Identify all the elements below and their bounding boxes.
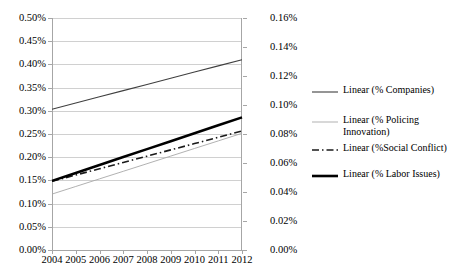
y-axis-right-tick (243, 47, 247, 48)
y-axis-left-tick (48, 111, 52, 112)
series-layer (52, 18, 242, 250)
y-axis-right-tick (243, 163, 247, 164)
y-axis-right-tick (243, 18, 247, 19)
y-axis-left-tick-label: 0.30% (19, 105, 46, 116)
legend-label: Linear (%Social Conflict) (343, 142, 447, 154)
y-axis-right-tick-label: 0.08% (270, 128, 297, 139)
series-line (52, 117, 242, 180)
y-axis-right-tick (243, 134, 247, 135)
y-axis-right-tick-label: 0.14% (270, 41, 297, 52)
legend-line-icon (312, 86, 338, 98)
legend-line-icon (312, 144, 338, 156)
y-axis-right-tick (243, 250, 247, 251)
x-axis-tick-label: 2007 (113, 254, 134, 266)
y-axis-left: 0.00%0.05%0.10%0.15%0.20%0.25%0.30%0.35%… (0, 0, 46, 271)
y-axis-left-tick (48, 41, 52, 42)
y-axis-left-tick (48, 134, 52, 135)
y-axis-left-tick (48, 250, 52, 251)
series-line (52, 133, 242, 194)
legend-entry[interactable]: Linear (%Social Conflict) (312, 142, 450, 156)
y-axis-right-tick-label: 0.02% (270, 215, 297, 226)
legend-label: Linear (% Policing Innovation) (343, 114, 419, 137)
x-axis-tick-label: 2010 (184, 254, 205, 266)
legend-entry[interactable]: Linear (% Labor Issues) (312, 168, 450, 182)
y-axis-left-tick-label: 0.20% (19, 151, 46, 162)
x-axis-tick-label: 2011 (208, 254, 229, 266)
series-line (52, 60, 242, 109)
x-axis-tick-label: 2005 (65, 254, 86, 266)
y-axis-left-tick-label: 0.40% (19, 58, 46, 69)
legend-label: Linear (% Companies) (343, 84, 434, 96)
plot-area (52, 18, 242, 250)
y-axis-right-tick-label: 0.10% (270, 99, 297, 110)
y-axis-left-tick-label: 0.45% (19, 35, 46, 46)
x-axis-tick-label: 2006 (89, 254, 110, 266)
y-axis-left-tick-label: 0.25% (19, 128, 46, 139)
legend-line-icon (312, 170, 338, 182)
y-axis-right-tick-label: 0.06% (270, 157, 297, 168)
y-axis-right-tick (243, 76, 247, 77)
y-axis-right-tick-label: 0.16% (270, 12, 297, 23)
legend-label: Linear (% Labor Issues) (343, 168, 440, 180)
y-axis-left-tick-label: 0.50% (19, 12, 46, 23)
series-line (52, 131, 242, 181)
y-axis-left-tick (48, 204, 52, 205)
y-axis-left-tick (48, 157, 52, 158)
y-axis-left-tick (48, 18, 52, 19)
y-axis-left-tick (48, 180, 52, 181)
x-axis-tick-label: 2009 (160, 254, 181, 266)
y-axis-left-tick-label: 0.05% (19, 221, 46, 232)
y-axis-left-tick (48, 64, 52, 65)
y-axis-right-tick (243, 221, 247, 222)
y-axis-left-tick-label: 0.10% (19, 198, 46, 209)
y-axis-left-tick-label: 0.15% (19, 174, 46, 185)
y-axis-right-tick (243, 192, 247, 193)
y-axis-left-tick (48, 227, 52, 228)
legend-entry[interactable]: Linear (% Companies) (312, 84, 450, 98)
x-axis-tick-label: 2012 (232, 254, 253, 266)
y-axis-right-tick-label: 0.12% (270, 70, 297, 81)
y-axis-right-tick (243, 105, 247, 106)
legend-entry[interactable]: Linear (% Policing Innovation) (312, 114, 450, 137)
y-axis-right-tick-label: 0.04% (270, 186, 297, 197)
y-axis-left-tick-label: 0.35% (19, 82, 46, 93)
x-axis-tick-label: 2008 (137, 254, 158, 266)
chart-container: 0.00%0.05%0.10%0.15%0.20%0.25%0.30%0.35%… (0, 0, 450, 271)
y-axis-left-tick (48, 88, 52, 89)
y-axis-right-tick-label: 0.00% (270, 244, 297, 255)
x-axis-labels: 200420052006200720082009201020112012 (52, 254, 242, 270)
y-axis-right: 0.00%0.02%0.04%0.06%0.08%0.10%0.12%0.14%… (270, 0, 316, 271)
x-axis-tick-label: 2004 (42, 254, 63, 266)
legend-line-icon (312, 116, 338, 128)
